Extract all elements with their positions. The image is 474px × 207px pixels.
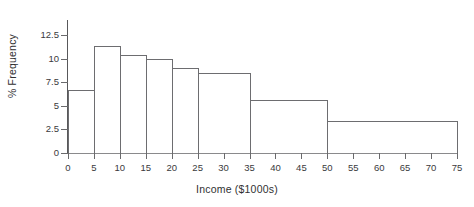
y-tick-mark: [61, 35, 68, 36]
x-tick-mark: [224, 153, 225, 159]
y-tick-mark: [61, 153, 68, 154]
x-tick-mark: [68, 153, 69, 159]
histogram-bar: [94, 46, 121, 153]
y-tick-mark: [61, 82, 68, 83]
x-tick-mark: [146, 153, 147, 159]
y-tick-label: 5: [19, 101, 59, 111]
x-tick-mark: [353, 153, 354, 159]
histogram-bar: [172, 68, 199, 153]
y-tick-label: 10: [19, 54, 59, 64]
x-tick-label: 75: [442, 163, 472, 173]
histogram-bar: [327, 121, 458, 153]
histogram-bar: [250, 100, 329, 153]
y-tick-label: 2.5: [19, 124, 59, 134]
x-tick-mark: [405, 153, 406, 159]
histogram-bar: [120, 55, 147, 153]
y-tick-label: 7.5: [19, 77, 59, 87]
x-tick-mark: [275, 153, 276, 159]
x-tick-mark: [198, 153, 199, 159]
y-tick-mark: [61, 129, 68, 130]
plot-area: [68, 20, 457, 153]
y-tick-label: 0: [19, 148, 59, 158]
histogram-chart: 02.557.51012.5 0510152025303540455055606…: [0, 0, 474, 207]
x-tick-mark: [457, 153, 458, 159]
x-tick-mark: [172, 153, 173, 159]
x-axis-line: [68, 153, 458, 154]
x-tick-mark: [327, 153, 328, 159]
y-tick-label: 12.5: [19, 30, 59, 40]
y-axis-title: % Frequency: [6, 21, 18, 111]
x-axis-title: Income ($1000s): [0, 183, 474, 195]
x-tick-mark: [379, 153, 380, 159]
histogram-bar: [68, 90, 95, 153]
x-tick-mark: [120, 153, 121, 159]
y-tick-mark: [61, 106, 68, 107]
x-tick-mark: [94, 153, 95, 159]
x-tick-mark: [301, 153, 302, 159]
x-tick-mark: [431, 153, 432, 159]
histogram-bar: [146, 59, 173, 153]
x-tick-mark: [250, 153, 251, 159]
histogram-bar: [198, 73, 251, 153]
y-tick-mark: [61, 59, 68, 60]
